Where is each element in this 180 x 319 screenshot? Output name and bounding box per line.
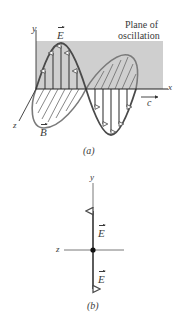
- speed-label: c: [147, 98, 151, 108]
- figure-a: [19, 30, 168, 135]
- plane-label-line1: Plane of: [125, 20, 158, 30]
- b-field-label: B: [40, 127, 47, 138]
- b-field-lobe-1: [32, 89, 86, 128]
- e-down-label: E: [98, 274, 105, 285]
- plane-label-line2: oscillation: [118, 31, 160, 41]
- axis-y-label-b: y: [90, 173, 94, 182]
- caption-b: (b): [87, 301, 99, 311]
- e-down-vector-symbol: E: [98, 274, 105, 285]
- axis-z-label: z: [13, 121, 17, 130]
- e-up-label: E: [98, 228, 105, 239]
- e-field-label: E: [57, 30, 64, 41]
- em-wave-diagram: [0, 0, 180, 319]
- axis-y-label: y: [32, 24, 36, 34]
- axis-x-label: x: [168, 83, 172, 92]
- axis-z-label-b: z: [56, 245, 60, 254]
- e-up-vector-symbol: E: [98, 228, 105, 239]
- caption-a: (a): [83, 146, 95, 156]
- b-vector-symbol: B: [40, 127, 47, 138]
- figure-b: [64, 183, 124, 289]
- e-vector-symbol: E: [57, 30, 64, 41]
- origin-dot: [90, 247, 95, 252]
- plane-of-oscillation: [36, 41, 163, 89]
